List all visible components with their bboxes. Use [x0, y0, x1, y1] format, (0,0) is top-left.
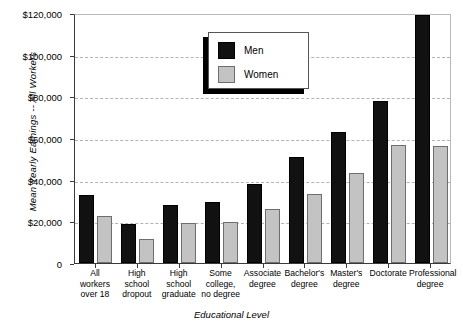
chart-legend: Men Women — [208, 32, 309, 89]
bar-women — [223, 222, 238, 263]
bar-men — [163, 205, 178, 263]
bar-women — [349, 173, 364, 263]
legend-swatch-women-icon — [218, 66, 235, 83]
bar-chart-figure: Mean Yearly Earnings -- All Workers $120… — [0, 0, 463, 325]
legend-label-men: Men — [244, 45, 263, 56]
bar-men — [121, 224, 136, 263]
legend-entry-men: Men — [218, 40, 263, 60]
x-axis-tick-labels: Allworkersover 18HighschooldropoutHighsc… — [74, 268, 451, 310]
x-tick-mark — [263, 264, 264, 268]
y-tick-label: $20,000 — [28, 217, 62, 228]
bar-women — [97, 216, 112, 263]
x-tick-label: Allworkersover 18 — [74, 268, 116, 300]
y-tick-label: $40,000 — [28, 175, 62, 186]
legend-label-women: Women — [244, 69, 278, 80]
x-tick-mark — [388, 264, 389, 268]
bar-women — [181, 223, 196, 263]
x-tick-mark — [430, 264, 431, 268]
x-tick-label: Highschoolgraduate — [158, 268, 200, 300]
bar-men — [205, 202, 220, 263]
bar-women — [307, 194, 322, 263]
y-tick-label: 0 — [57, 259, 62, 270]
x-tick-mark — [346, 264, 347, 268]
x-tick-mark — [95, 264, 96, 268]
x-tick-label: Associatedegree — [242, 268, 284, 289]
x-tick-label: Professionaldegree — [409, 268, 451, 289]
bar-women — [139, 239, 154, 263]
x-tick-mark — [137, 264, 138, 268]
y-tick-label: $60,000 — [28, 134, 62, 145]
x-tick-label: Highschooldropout — [116, 268, 158, 300]
x-axis-title: Educational Level — [0, 309, 463, 320]
y-axis-tick-labels: $120,000$100,000$80,000$60,000$40,000$20… — [0, 0, 70, 325]
plot-area: Men Women — [74, 14, 451, 264]
gridline — [75, 140, 450, 141]
bar-men — [373, 101, 388, 264]
x-tick-label: Bachelor'sdegree — [283, 268, 325, 289]
y-tick-label: $120,000 — [22, 9, 62, 20]
bar-men — [247, 184, 262, 263]
x-tick-label: Doctorate — [367, 268, 409, 279]
y-tick-label: $100,000 — [22, 50, 62, 61]
bar-men — [79, 195, 94, 263]
x-tick-label: Master'sdegree — [325, 268, 367, 289]
x-tick-mark — [304, 264, 305, 268]
y-tick-mark — [70, 264, 74, 265]
y-tick-label: $80,000 — [28, 92, 62, 103]
x-tick-mark — [179, 264, 180, 268]
legend-swatch-men-icon — [218, 42, 235, 59]
legend-entry-women: Women — [218, 64, 278, 84]
x-tick-label: Somecollege,no degree — [200, 268, 242, 300]
bar-men — [415, 15, 430, 263]
gridline — [75, 98, 450, 99]
bar-women — [391, 145, 406, 263]
bar-women — [265, 209, 280, 263]
x-tick-mark — [221, 264, 222, 268]
bar-women — [433, 146, 448, 263]
bar-men — [331, 132, 346, 263]
bar-men — [289, 157, 304, 263]
